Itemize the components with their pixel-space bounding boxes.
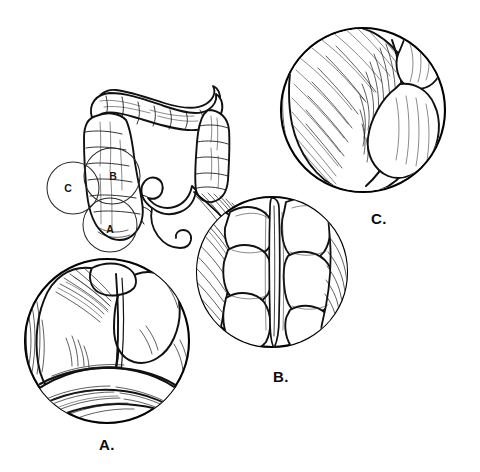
colon-illustration: C B A [0, 0, 480, 472]
detail-c-caption: C. [371, 210, 387, 227]
detail-b-caption: B. [273, 368, 289, 385]
locator-label-a: A [106, 223, 114, 235]
locator-label-c: C [64, 182, 72, 194]
detail-a-caption: A. [99, 436, 115, 453]
locator-label-b: B [109, 170, 117, 182]
figure-root: C B A [0, 0, 480, 472]
